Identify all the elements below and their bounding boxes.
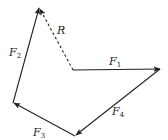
vector-f1-arrow: [73, 69, 160, 70]
vector-f3: F3: [14, 103, 75, 140]
vector-f4: F4: [76, 69, 160, 135]
vector-f1-label: F1: [108, 55, 121, 69]
vector-f4-label: F4: [111, 105, 125, 119]
vector-f4-arrow: [76, 69, 160, 135]
vector-f2: F2: [8, 8, 39, 103]
vector-f2-label: F2: [8, 46, 21, 60]
vector-resultant-arrow: [40, 9, 73, 70]
vector-diagram: F1 F4 F3 F2 R: [0, 0, 168, 140]
vector-resultant: R: [40, 9, 73, 70]
vector-f1: F1: [73, 55, 160, 70]
vector-f3-label: F3: [32, 126, 45, 140]
vector-resultant-label: R: [56, 24, 65, 37]
